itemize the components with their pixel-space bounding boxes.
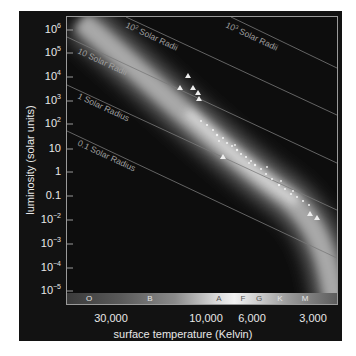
y-tick-label: 10−5 (41, 284, 61, 296)
hr-diagram-graphic: 102 Solar Radii 103 Solar Radii 10 Solar… (67, 17, 338, 305)
x-tick-label: 10,000 (189, 312, 223, 324)
label-1-solar-radius: 1 Solar Radius (76, 91, 131, 124)
y-tick-label: 0.1 (46, 189, 61, 201)
spectral-class-m: M (302, 293, 309, 304)
y-tick-label: 1 (55, 165, 61, 177)
y-tick-label: 10−2 (41, 213, 61, 225)
x-tick-label: 3,000 (299, 312, 327, 324)
y-tick-label: 106 (45, 23, 61, 35)
spectral-class-g: G (256, 293, 262, 304)
y-ticks (67, 30, 73, 291)
spectral-class-k: K (277, 293, 282, 304)
y-tick-label: 10−3 (41, 237, 61, 249)
y-tick-label: 10−4 (41, 261, 61, 273)
spectral-class-o: O (86, 293, 92, 304)
label-01-solar-radius: 0.1 Solar Radius (76, 138, 137, 174)
spectral-class-bar: O B A F G K M (67, 293, 337, 304)
x-tick-label: 6,000 (238, 312, 266, 324)
main-sequence-core (187, 112, 297, 202)
plot-area: 102 Solar Radii 103 Solar Radii 10 Solar… (66, 16, 338, 305)
y-tick-label: 102 (45, 117, 61, 129)
y-tick-label: 105 (45, 46, 61, 58)
y-tick-label: 104 (45, 70, 61, 82)
spectral-class-b: B (147, 293, 152, 304)
y-tick-label: 10 (49, 142, 61, 154)
y-axis-title: luminosity (solar units) (24, 105, 36, 214)
x-tick-label: 30,000 (94, 312, 128, 324)
spectral-class-f: F (241, 293, 246, 304)
y-tick-label: 103 (45, 94, 61, 106)
spectral-class-a: A (216, 293, 221, 304)
x-axis-title: surface temperature (Kelvin) (0, 328, 356, 340)
